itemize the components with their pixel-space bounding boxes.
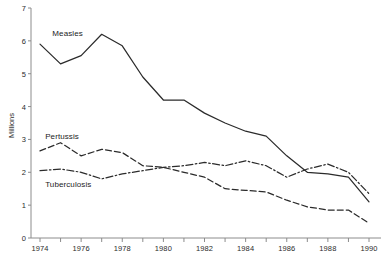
y-tick-label-5: 5 — [8, 69, 26, 78]
x-tick-label-1982: 1982 — [196, 244, 213, 253]
x-tick-label-1990: 1990 — [360, 244, 377, 253]
axis-lines — [31, 8, 381, 238]
immunization-line-chart: Millions 0123456719741976197819801982198… — [0, 0, 383, 265]
x-axis-ticks — [40, 238, 369, 242]
y-tick-label-0: 0 — [8, 234, 26, 243]
series-label-pertussis: Pertussis — [45, 132, 79, 141]
x-tick-label-1986: 1986 — [278, 244, 295, 253]
series-label-tuberculosis: Tuberculosis — [45, 180, 91, 189]
x-tick-label-1984: 1984 — [237, 244, 254, 253]
y-tick-label-2: 2 — [8, 168, 26, 177]
x-tick-label-1974: 1974 — [31, 244, 48, 253]
y-tick-label-3: 3 — [8, 135, 26, 144]
y-tick-label-7: 7 — [8, 4, 26, 13]
x-tick-label-1980: 1980 — [155, 244, 172, 253]
y-tick-label-4: 4 — [8, 102, 26, 111]
y-tick-label-6: 6 — [8, 36, 26, 45]
x-tick-label-1976: 1976 — [73, 244, 90, 253]
x-tick-label-1978: 1978 — [114, 244, 131, 253]
series-label-measles: Measles — [52, 29, 83, 38]
x-tick-label-1988: 1988 — [319, 244, 336, 253]
y-tick-label-1: 1 — [8, 201, 26, 210]
